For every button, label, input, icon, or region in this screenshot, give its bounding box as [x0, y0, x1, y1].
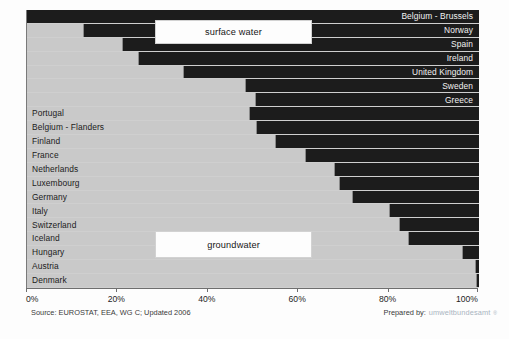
registered-mark-icon: ®: [493, 310, 497, 316]
x-axis: 0%20%40%60%80%100%: [26, 288, 478, 289]
table-row: Sweden: [27, 79, 479, 93]
bar-label: Ireland: [447, 52, 473, 65]
table-row: France: [27, 149, 479, 163]
x-axis-tick-label: 40%: [198, 294, 215, 304]
umweltbundesamt-logo: umweltbundesamt: [429, 308, 490, 317]
table-row: Austria: [27, 260, 479, 274]
table-row: Netherlands: [27, 163, 479, 177]
x-axis-tick: [297, 288, 298, 292]
bar-label: Belgium - Brussels: [401, 10, 473, 23]
x-axis-tick: [477, 288, 478, 292]
groundwater-segment: [27, 260, 476, 273]
bar-label: United Kingdom: [412, 66, 473, 79]
table-row: Ireland: [27, 52, 479, 66]
x-axis-tick-label: 20%: [108, 294, 125, 304]
bar-label: Sweden: [442, 79, 473, 92]
bar-label: Denmark: [32, 274, 67, 287]
groundwater-segment: [27, 38, 123, 51]
groundwater-segment: [27, 79, 246, 92]
chart-canvas: Belgium - BrusselsNorwaySpainIrelandUnit…: [0, 0, 509, 339]
bar-label: France: [32, 149, 59, 162]
bar-label: Belgium - Flanders: [32, 121, 104, 134]
table-row: United Kingdom: [27, 66, 479, 80]
source-note: Source: EUROSTAT, EEA, WG C; Updated 200…: [31, 308, 191, 317]
groundwater-segment: [27, 149, 306, 162]
prepared-by: Prepared by: umweltbundesamt ®: [384, 308, 498, 317]
x-axis-tick-label: 80%: [379, 294, 396, 304]
groundwater-segment: [27, 135, 276, 148]
groundwater-segment: [27, 204, 390, 217]
table-row: Denmark: [27, 274, 479, 288]
x-axis-tick-label: 100%: [456, 294, 478, 304]
groundwater-segment: [27, 24, 84, 37]
bar-label: Germany: [32, 191, 67, 204]
legend-surface-water: surface water: [155, 20, 312, 44]
bar-label: Iceland: [32, 232, 60, 245]
prepared-by-label: Prepared by:: [384, 308, 426, 317]
table-row: Belgium - Flanders: [27, 121, 479, 135]
groundwater-segment: [27, 66, 184, 79]
table-row: Finland: [27, 135, 479, 149]
table-row: Portugal: [27, 107, 479, 121]
x-axis-tick-label: 0%: [26, 294, 38, 304]
bar-label: Portugal: [32, 107, 64, 120]
bar-label: Hungary: [32, 246, 64, 259]
bar-label: Austria: [32, 260, 59, 273]
x-axis-tick: [116, 288, 117, 292]
bar-label: Netherlands: [32, 163, 78, 176]
x-axis-tick: [26, 288, 27, 292]
groundwater-segment: [27, 93, 256, 106]
legend-groundwater: groundwater: [155, 231, 312, 258]
chart-footer: Source: EUROSTAT, EEA, WG C; Updated 200…: [0, 306, 509, 326]
legend-groundwater-label: groundwater: [207, 240, 260, 250]
bar-label: Spain: [451, 38, 473, 51]
groundwater-segment: [27, 52, 139, 65]
groundwater-segment: [27, 274, 477, 287]
bar-label: Greece: [445, 93, 473, 106]
bar-label: Finland: [32, 135, 60, 148]
x-axis-tick: [207, 288, 208, 292]
bar-label: Norway: [444, 24, 473, 37]
bar-label: Italy: [32, 204, 48, 217]
table-row: Italy: [27, 204, 479, 218]
table-row: Luxembourg: [27, 177, 479, 191]
legend-surface-water-label: surface water: [205, 27, 262, 37]
groundwater-segment: [27, 191, 353, 204]
table-row: Germany: [27, 191, 479, 205]
table-row: Greece: [27, 93, 479, 107]
bar-label: Switzerland: [32, 218, 76, 231]
x-axis-tick: [388, 288, 389, 292]
bar-label: Luxembourg: [32, 177, 80, 190]
groundwater-segment: [27, 218, 400, 231]
x-axis-tick-label: 60%: [289, 294, 306, 304]
